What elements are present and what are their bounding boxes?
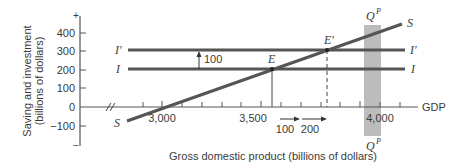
y-axis-minus-sign: − <box>73 140 79 151</box>
x-axis-title: Gross domestic product (billions of doll… <box>169 150 377 162</box>
svg-text:P: P <box>375 137 381 146</box>
svg-text:300: 300 <box>57 45 75 57</box>
e-prime-label: E′ <box>323 33 334 47</box>
saving-investment-chart: + − 400 300 200 100 0 −100 Saving and in… <box>0 0 467 164</box>
svg-text:Saving and investment: Saving and investment <box>21 25 33 136</box>
multiplier-label-200: 200 <box>301 123 319 135</box>
i-label-right: I <box>410 62 416 76</box>
svg-text:3,500: 3,500 <box>239 112 267 124</box>
x-tick-labels: 3,000 3,500 4,000 <box>148 112 394 124</box>
s-label-left: S <box>114 116 120 130</box>
arrow-up-icon <box>197 51 202 57</box>
svg-text:−100: −100 <box>50 120 75 132</box>
potential-gdp-label-bottom: Q P <box>366 137 381 153</box>
svg-text:P: P <box>375 7 381 16</box>
svg-text:(billions of dollars): (billions of dollars) <box>33 37 45 126</box>
svg-text:4,000: 4,000 <box>366 112 394 124</box>
y-ticks <box>80 33 86 126</box>
potential-gdp-label-top: Q P <box>366 7 381 23</box>
e-label: E <box>267 52 276 66</box>
arrow-right-icon <box>294 117 300 122</box>
svg-text:400: 400 <box>57 27 75 39</box>
svg-text:200: 200 <box>57 64 75 76</box>
svg-text:Q: Q <box>366 139 375 153</box>
y-tick-labels: 400 300 200 100 0 −100 <box>50 27 75 132</box>
s-label-right: S <box>407 16 413 30</box>
shift-amount-label: 100 <box>204 53 222 65</box>
svg-text:0: 0 <box>69 101 75 113</box>
x-axis-end-label: GDP <box>422 101 446 113</box>
multiplier-label-100: 100 <box>276 123 294 135</box>
y-axis-plus-sign: + <box>73 10 79 21</box>
i-prime-label-right: I′ <box>409 43 417 57</box>
svg-text:3,000: 3,000 <box>148 112 176 124</box>
equilibrium-point-e-prime <box>325 48 329 52</box>
i-prime-label-left: I′ <box>114 43 122 57</box>
i-label-left: I <box>115 62 121 76</box>
equilibrium-point-e <box>270 67 274 71</box>
svg-text:Q: Q <box>366 9 375 23</box>
svg-text:100: 100 <box>57 82 75 94</box>
arrow-right-icon <box>321 117 327 122</box>
y-axis-title: Saving and investment (billions of dolla… <box>21 25 45 136</box>
